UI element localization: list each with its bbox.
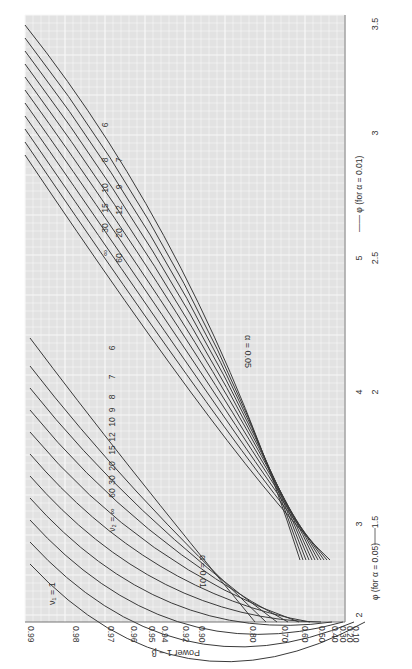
nu2-label-alpha05: 12 (107, 432, 117, 442)
nu2-label-alpha01: 6 (100, 122, 110, 127)
phi-alpha05-label: φ (for α = 0.05) (370, 543, 380, 600)
phi-tick-outer: 2 (354, 612, 364, 617)
phi-tick-inner: 3 (370, 130, 380, 135)
nu2-label-alpha05: 60 (107, 488, 117, 498)
power-tick: 0.97 (106, 626, 116, 643)
phi-tick-inner: 2.5 (370, 252, 380, 265)
phi-tick-inner: 2 (370, 389, 380, 394)
nu2-label-alpha05: 20 (107, 461, 117, 471)
phi-tick-outer: 5 (354, 255, 364, 260)
phi-tick-labels: 23451.522.533.5φ (for α = 0.05)—— φ (for… (354, 18, 380, 618)
nu2-label-alpha05: ν₂ = ∞ (107, 508, 117, 531)
power-tick: 0.80 (248, 626, 258, 643)
nu2-label-alpha05: 15 (107, 445, 117, 455)
nu2-label-alpha01: 9 (114, 184, 124, 189)
power-tick: 0.94 (160, 626, 170, 643)
power-tick: 0.96 (129, 626, 139, 643)
power-tick: 0.99 (26, 626, 36, 643)
phi-tick-inner: 3.5 (370, 18, 380, 31)
nu2-label-alpha01: 8 (100, 157, 110, 162)
power-chart: ν₁ = 1α = 0.05α = 0.016789101215203060ν₂… (0, 0, 412, 669)
chart-canvas: ν₁ = 1α = 0.05α = 0.016789101215203060ν₂… (0, 0, 412, 669)
power-tick: 0.95 (147, 626, 157, 643)
phi-alpha01-label: —— φ (for α = 0.01) (354, 156, 364, 232)
nu2-label-alpha05: 8 (107, 394, 117, 399)
nu2-label-alpha05: 6 (107, 345, 117, 350)
nu2-label-alpha05: 9 (107, 407, 117, 412)
power-tick: 0.98 (71, 626, 81, 643)
power-axis-title: Power 1 − β (152, 648, 200, 658)
power-tick: 0.40 (330, 626, 340, 643)
nu2-label-alpha01: 7 (114, 157, 124, 162)
phi-tick-outer: 3 (354, 521, 364, 526)
phi-tick-outer: 4 (354, 389, 364, 394)
power-tick: 0.70 (280, 626, 290, 643)
alpha01-label: α = 0.01 (198, 555, 208, 588)
nu2-label-alpha01: 60 (114, 253, 124, 263)
nu2-label-alpha01: 30 (100, 223, 110, 233)
power-tick: 0.60 (300, 626, 310, 643)
nu2-label-alpha05: 30 (107, 475, 117, 485)
power-tick: 0.92 (181, 626, 191, 643)
power-tick: 0.50 (317, 626, 327, 643)
nu2-label-alpha05: 10 (107, 417, 117, 427)
nu2-label-alpha01: ∞ (100, 250, 110, 256)
nu2-label-alpha01: 12 (114, 205, 124, 215)
phi-tick-inner: 1.5 (370, 516, 380, 529)
nu2-label-alpha01: 10 (100, 183, 110, 193)
nu2-label-alpha01: 15 (100, 203, 110, 213)
nu2-label-alpha05: 7 (107, 374, 117, 379)
nu2-label-alpha01: 20 (114, 228, 124, 238)
nu1-label: ν₁ = 1 (47, 582, 57, 605)
power-tick: 0.90 (197, 626, 207, 643)
alpha05-label: α = 0.05 (243, 335, 253, 368)
